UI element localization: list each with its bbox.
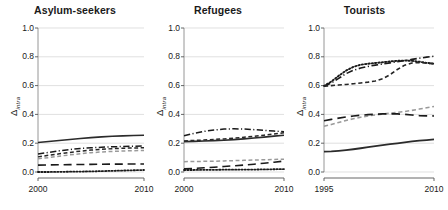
x-tick-label: 2000	[18, 184, 58, 194]
series-longdash-dark	[324, 114, 434, 121]
y-tick-label: 0.8	[10, 51, 34, 61]
y-tick-label: 0.6	[156, 80, 180, 90]
series-solid-dark	[184, 135, 284, 141]
y-tick-label: 0.2	[296, 138, 320, 148]
series-solid-dark	[324, 139, 434, 151]
y-tick-label: 0.6	[10, 80, 34, 90]
y-tick-label: 0.0	[10, 167, 34, 177]
series-dash-gray	[184, 159, 284, 161]
series-solid-dark	[38, 135, 144, 142]
series-dotted-dark	[324, 61, 434, 86]
series-longdash-dark	[184, 161, 284, 169]
series-longdash-dark	[38, 164, 144, 165]
chart-panel-refugees: RefugeesΔintra1.00.80.60.40.20.020002010	[148, 0, 288, 210]
chart-panel-asylum-seekers: Asylum-seekersΔintra1.00.80.60.40.20.020…	[0, 0, 150, 210]
y-tick-label: 0.8	[296, 51, 320, 61]
y-tick-label: 1.0	[296, 23, 320, 33]
y-tick-label: 0.0	[296, 167, 320, 177]
y-tick-label: 0.8	[156, 51, 180, 61]
chart-panel-tourists: TouristsΔintra1.00.80.60.40.20.019952010	[292, 0, 437, 210]
series-dotted-dark	[184, 169, 284, 170]
y-tick-label: 0.4	[156, 109, 180, 119]
y-tick-label: 0.4	[10, 109, 34, 119]
series-dashdot-dark	[324, 56, 434, 86]
y-tick-label: 1.0	[156, 23, 180, 33]
y-tick-label: 0.0	[156, 167, 180, 177]
y-tick-label: 0.4	[296, 109, 320, 119]
y-tick-label: 1.0	[10, 23, 34, 33]
x-tick-label: 2000	[164, 184, 204, 194]
y-tick-label: 0.2	[10, 138, 34, 148]
x-tick-label: 2010	[414, 184, 448, 194]
y-tick-label: 0.6	[296, 80, 320, 90]
series-dash-gray	[324, 106, 434, 126]
y-tick-label: 0.2	[156, 138, 180, 148]
x-tick-label: 1995	[304, 184, 344, 194]
